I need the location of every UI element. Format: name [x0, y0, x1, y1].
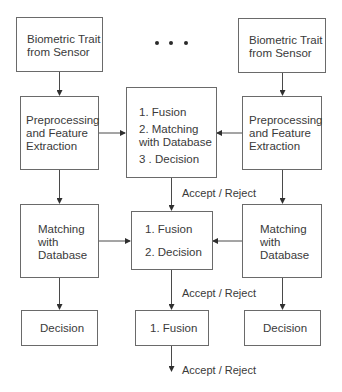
score-fusion-step2: 2. Decision — [145, 246, 202, 259]
score-level-fusion-box: 1. Fusion 2. Decision — [131, 211, 213, 270]
score-fusion-step1: 1. Fusion — [145, 223, 192, 236]
right-matching-box: Matching with Database — [242, 204, 322, 278]
feature-fusion-step3: 3 . Decision — [139, 153, 199, 166]
left-matching-box: Matching with Database — [20, 204, 99, 278]
feature-level-fusion-box: 1. Fusion 2. Matching with Database 3 . … — [126, 87, 217, 178]
left-preprocessing-box: Preprocessing and Feature Extraction — [20, 96, 99, 170]
score-fusion-output-label: Accept / Reject — [182, 287, 256, 299]
decision-level-fusion-box: 1. Fusion — [135, 310, 209, 346]
right-matching-label: Matching with Database — [260, 223, 309, 262]
right-decision-box: Decision — [244, 310, 321, 346]
feature-fusion-step2: 2. Matching with Database — [139, 123, 212, 149]
decision-fusion-output-label: Accept / Reject — [182, 364, 256, 376]
left-preprocessing-label: Preprocessing and Feature Extraction — [26, 114, 100, 153]
right-preprocessing-box: Preprocessing and Feature Extraction — [242, 96, 322, 170]
ellipsis-dot — [169, 41, 173, 45]
right-decision-label: Decision — [263, 322, 307, 335]
left-decision-box: Decision — [21, 310, 98, 346]
left-sensor-label: Biometric Trait from Sensor — [27, 33, 101, 59]
ellipsis-dot — [184, 41, 188, 45]
left-sensor-box: Biometric Trait from Sensor — [16, 17, 103, 72]
feature-fusion-output-label: Accept / Reject — [182, 187, 256, 199]
left-matching-label: Matching with Database — [38, 223, 87, 262]
feature-fusion-step1: 1. Fusion — [139, 106, 186, 119]
left-decision-label: Decision — [40, 322, 84, 335]
right-sensor-box: Biometric Trait from Sensor — [238, 18, 326, 73]
right-sensor-label: Biometric Trait from Sensor — [249, 34, 323, 60]
right-preprocessing-label: Preprocessing and Feature Extraction — [249, 114, 323, 153]
ellipsis-dot — [155, 41, 159, 45]
decision-fusion-step1: 1. Fusion — [150, 322, 197, 335]
